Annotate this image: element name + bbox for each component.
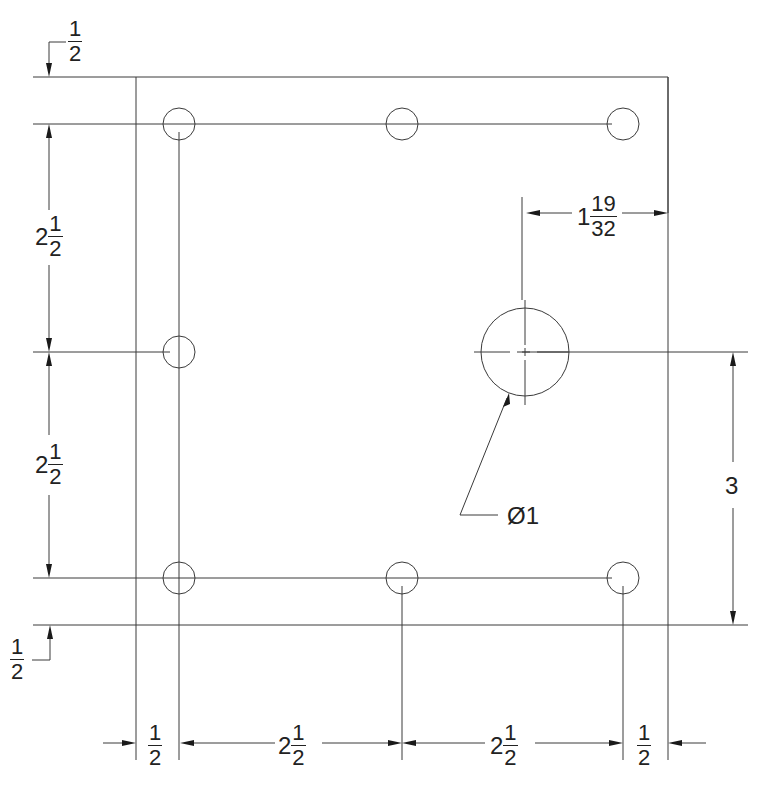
dim-left-lower-spacing: 212 <box>35 441 63 488</box>
left-dimension-lines <box>32 42 66 660</box>
dim-left-upper-spacing: 212 <box>35 213 63 260</box>
diameter-leader <box>460 393 510 515</box>
large-hole <box>474 300 569 405</box>
dim-top-edge-offset: 12 <box>68 18 82 65</box>
dim-bottom-spacing-1: 212 <box>278 722 306 769</box>
small-holes <box>163 108 639 594</box>
extension-lines <box>33 77 748 760</box>
dim-bottom-right-offset: 12 <box>637 722 651 769</box>
dim-large-hole-from-right: 11932 <box>577 193 617 240</box>
dim-large-hole-diameter: Ø1 <box>507 504 539 528</box>
technical-drawing <box>0 0 761 786</box>
dim-bottom-left-offset: 12 <box>148 722 162 769</box>
plate-outline <box>136 77 748 760</box>
bottom-dimension-lines <box>103 740 706 746</box>
dim-large-hole-height: 3 <box>725 474 738 498</box>
dim-bottom-edge-offset: 12 <box>10 636 24 683</box>
dim-bottom-spacing-2: 212 <box>490 722 518 769</box>
